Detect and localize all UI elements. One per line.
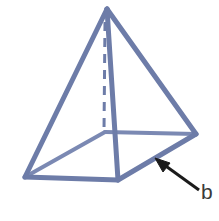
leader-arrow-head <box>155 158 170 172</box>
leader-arrow-shaft <box>163 164 199 190</box>
base-edge-back-to-right <box>105 132 196 134</box>
pyramid-face-front-right <box>107 9 196 180</box>
base-side-label-b: b <box>201 181 213 202</box>
pyramid-figure: b <box>0 0 219 221</box>
base-edge-front-left-to-front <box>25 177 118 180</box>
pyramid-drawing <box>0 0 219 221</box>
leader-arrow <box>155 158 199 190</box>
